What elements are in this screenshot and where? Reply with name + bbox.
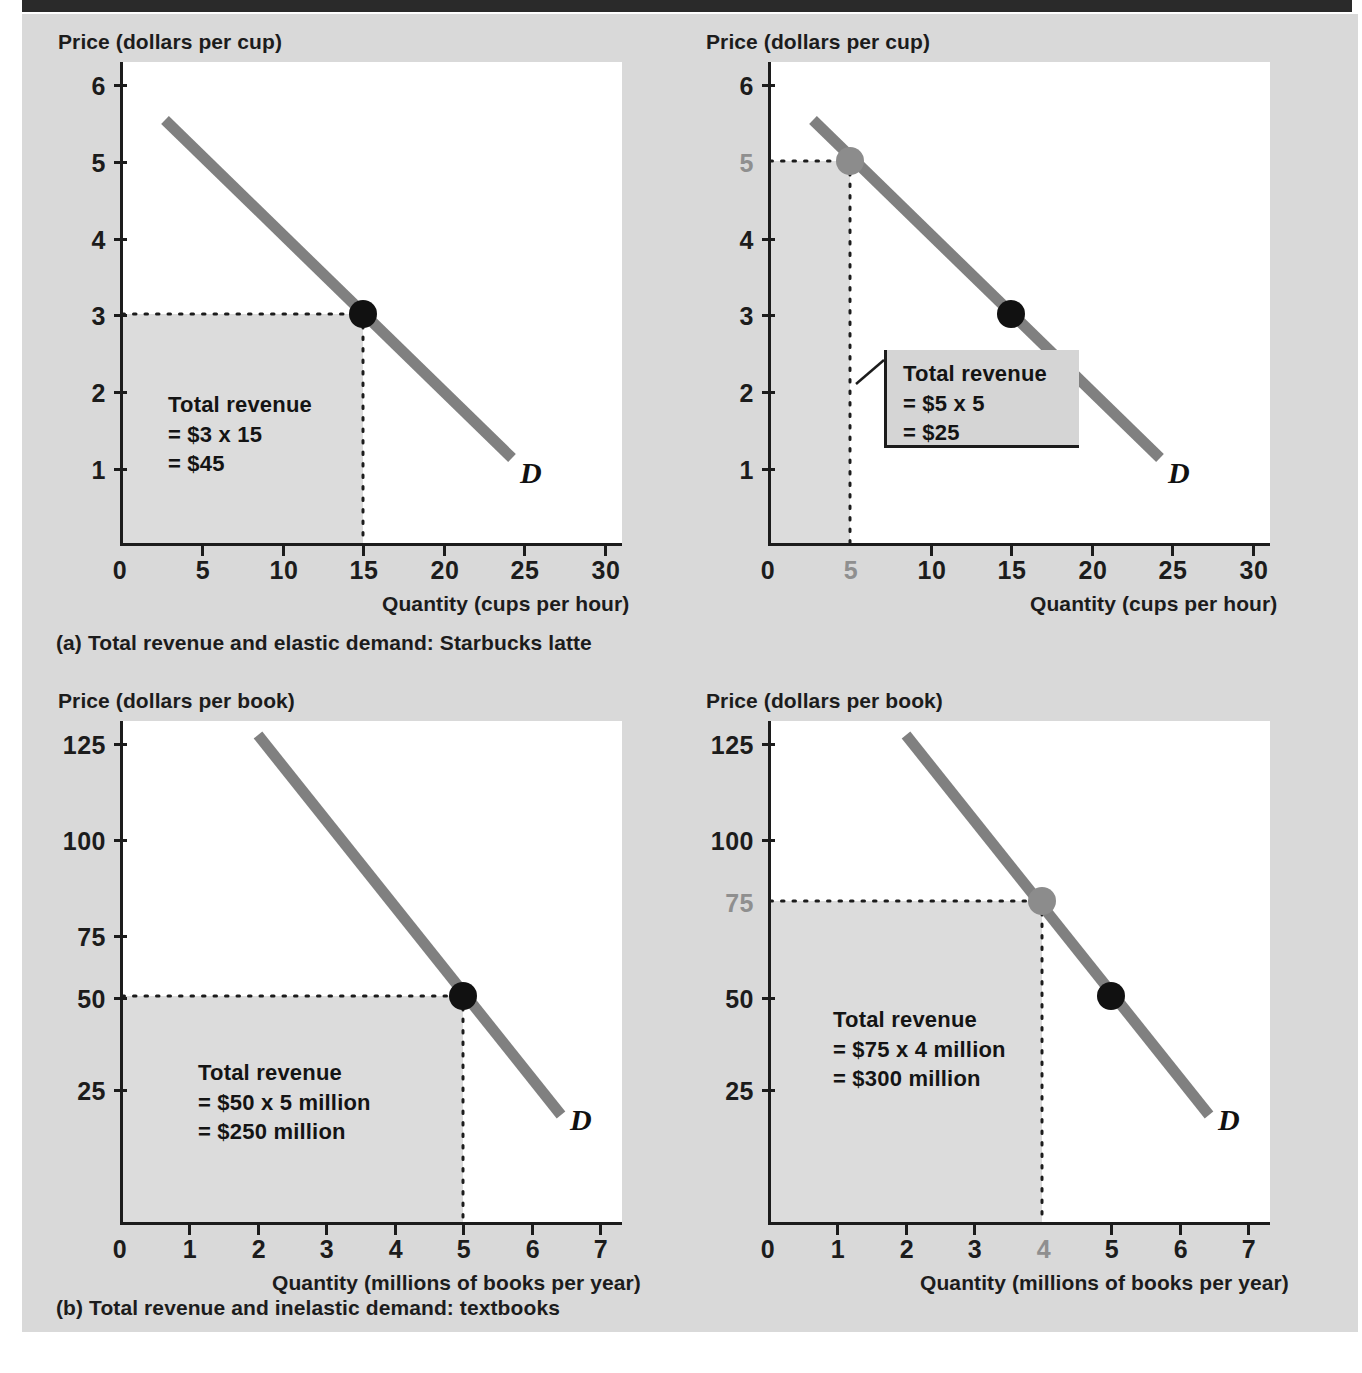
x-tick-label-0: 0 bbox=[98, 1235, 142, 1264]
y-tick-label-125: 125 bbox=[38, 731, 106, 760]
x-axis-title-a-right: Quantity (cups per hour) bbox=[1030, 592, 1277, 616]
marker-point-black-a-right bbox=[997, 300, 1025, 328]
x-axis-title-b-left: Quantity (millions of books per year) bbox=[272, 1271, 641, 1295]
annotation-line-3: = $250 million bbox=[198, 1117, 371, 1147]
y-tick-5 bbox=[114, 161, 127, 164]
y-tick-3 bbox=[762, 314, 775, 317]
x-tick-30 bbox=[1252, 543, 1255, 556]
x-tick-label-5: 5 bbox=[181, 556, 225, 585]
y-tick-label-2: 2 bbox=[62, 379, 106, 408]
x-tick-4 bbox=[394, 1222, 397, 1235]
y-axis-b-left bbox=[120, 721, 123, 1225]
x-tick-3 bbox=[325, 1222, 328, 1235]
x-tick-label-5: 5 bbox=[1090, 1235, 1134, 1264]
annotation-line-2: = $5 x 5 bbox=[903, 389, 1065, 419]
x-axis-a-left bbox=[120, 543, 622, 546]
y-tick-label-100: 100 bbox=[686, 827, 754, 856]
annotation-line-1: Total revenue bbox=[833, 1005, 1006, 1035]
x-tick-label-25: 25 bbox=[1151, 556, 1195, 585]
y-tick-label-4: 4 bbox=[62, 226, 106, 255]
x-axis-title-a-left: Quantity (cups per hour) bbox=[382, 592, 629, 616]
y-tick-label-125: 125 bbox=[686, 731, 754, 760]
x-tick-10 bbox=[282, 543, 285, 556]
x-tick-label-3: 3 bbox=[305, 1235, 349, 1264]
annotation-a-left: Total revenue = $3 x 15 = $45 bbox=[168, 390, 312, 479]
y-tick-label-1: 1 bbox=[710, 456, 754, 485]
annotation-line-3: = $25 bbox=[903, 418, 1065, 448]
x-tick-label-30: 30 bbox=[584, 556, 628, 585]
x-tick-label-2: 2 bbox=[885, 1235, 929, 1264]
y-tick-3 bbox=[114, 314, 127, 317]
annotation-b-left: Total revenue = $50 x 5 million = $250 m… bbox=[198, 1058, 371, 1147]
x-tick-label-7: 7 bbox=[579, 1235, 623, 1264]
marker-point-gray-b-right bbox=[1028, 887, 1056, 915]
x-tick-20 bbox=[443, 543, 446, 556]
x-tick-25 bbox=[1171, 543, 1174, 556]
x-axis-b-left bbox=[120, 1222, 622, 1225]
y-tick-1 bbox=[114, 468, 127, 471]
demand-label-a-right: D bbox=[1168, 456, 1190, 490]
y-tick-label-75-highlight: 75 bbox=[686, 889, 754, 918]
x-tick-label-20: 20 bbox=[423, 556, 467, 585]
x-tick-label-1: 1 bbox=[168, 1235, 212, 1264]
x-axis-a-right bbox=[768, 543, 1270, 546]
y-tick-25 bbox=[762, 1089, 775, 1092]
x-tick-label-15: 15 bbox=[342, 556, 386, 585]
x-tick-2 bbox=[905, 1222, 908, 1235]
y-tick-2 bbox=[762, 391, 775, 394]
demand-label-b-right: D bbox=[1218, 1103, 1240, 1137]
y-axis-b-right bbox=[768, 721, 771, 1225]
marker-point-b-left bbox=[449, 982, 477, 1010]
y-tick-50 bbox=[114, 997, 127, 1000]
marker-point-gray-a-right bbox=[836, 147, 864, 175]
x-tick-label-6: 6 bbox=[1159, 1235, 1203, 1264]
y-tick-2 bbox=[114, 391, 127, 394]
x-tick-7 bbox=[1247, 1222, 1250, 1235]
x-tick-label-0: 0 bbox=[746, 1235, 790, 1264]
x-tick-label-20: 20 bbox=[1071, 556, 1115, 585]
y-tick-100 bbox=[762, 839, 775, 842]
annotation-line-3: = $45 bbox=[168, 449, 312, 479]
annotation-line-1: Total revenue bbox=[198, 1058, 371, 1088]
chart-a-right: Price (dollars per cup) Total revenue = … bbox=[648, 0, 1348, 640]
x-tick-label-6: 6 bbox=[511, 1235, 555, 1264]
x-tick-label-25: 25 bbox=[503, 556, 547, 585]
annotation-line-3: = $300 million bbox=[833, 1064, 1006, 1094]
y-tick-label-5: 5 bbox=[62, 149, 106, 178]
x-tick-label-0: 0 bbox=[746, 556, 790, 585]
x-tick-label-2: 2 bbox=[237, 1235, 281, 1264]
y-tick-1 bbox=[762, 468, 775, 471]
x-tick-label-5: 5 bbox=[442, 1235, 486, 1264]
y-tick-125 bbox=[114, 743, 127, 746]
annotation-line-1: Total revenue bbox=[168, 390, 312, 420]
y-tick-label-50: 50 bbox=[686, 985, 754, 1014]
y-tick-50 bbox=[762, 997, 775, 1000]
y-tick-25 bbox=[114, 1089, 127, 1092]
y-tick-label-75: 75 bbox=[38, 923, 106, 952]
marker-point-a-left bbox=[349, 300, 377, 328]
y-tick-label-6: 6 bbox=[62, 72, 106, 101]
x-tick-label-10: 10 bbox=[910, 556, 954, 585]
x-tick-6 bbox=[531, 1222, 534, 1235]
annotation-line-2: = $3 x 15 bbox=[168, 420, 312, 450]
annotation-line-2: = $50 x 5 million bbox=[198, 1088, 371, 1118]
x-tick-5 bbox=[1110, 1222, 1113, 1235]
x-tick-25 bbox=[523, 543, 526, 556]
x-tick-5 bbox=[462, 1222, 465, 1235]
y-tick-label-100: 100 bbox=[38, 827, 106, 856]
x-tick-label-4: 4 bbox=[374, 1235, 418, 1264]
y-tick-6 bbox=[762, 84, 775, 87]
chart-b-right: Price (dollars per book) D Total revenue… bbox=[648, 663, 1348, 1323]
caption-panel-a: (a) Total revenue and elastic demand: St… bbox=[56, 631, 592, 655]
y-axis-a-left bbox=[120, 62, 123, 546]
x-tick-label-30: 30 bbox=[1232, 556, 1276, 585]
y-tick-label-50: 50 bbox=[38, 985, 106, 1014]
y-tick-label-3: 3 bbox=[710, 302, 754, 331]
x-tick-15 bbox=[1010, 543, 1013, 556]
annotation-b-right: Total revenue = $75 x 4 million = $300 m… bbox=[833, 1005, 1006, 1094]
x-tick-10 bbox=[930, 543, 933, 556]
annotation-a-right: Total revenue = $5 x 5 = $25 bbox=[903, 359, 1065, 448]
chart-b-left: Price (dollars per book) D Total revenue… bbox=[0, 663, 680, 1323]
demand-label-b-left: D bbox=[570, 1103, 592, 1137]
x-tick-20 bbox=[1091, 543, 1094, 556]
